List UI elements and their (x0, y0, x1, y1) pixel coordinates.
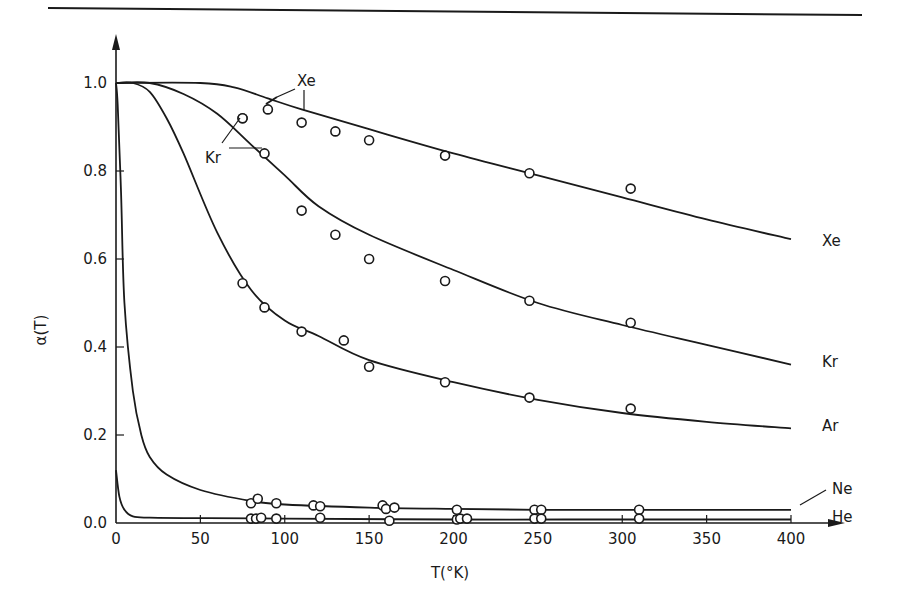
point-xe (297, 118, 306, 127)
y-axis-arrow-icon (112, 34, 120, 50)
y-tick-label: 0.8 (83, 162, 107, 180)
point-kr (525, 296, 534, 305)
curve-kr (116, 82, 791, 364)
annotation-xe: Xe (297, 72, 316, 90)
x-tick-label: 100 (270, 530, 299, 548)
x-tick-label: 350 (692, 530, 721, 548)
xe-leader-1 (277, 89, 295, 97)
point-ar (441, 378, 450, 387)
point-he (537, 514, 546, 523)
point-ne (272, 499, 281, 508)
point-ar (238, 279, 247, 288)
x-tick-label: 300 (608, 530, 637, 548)
point-ar (525, 393, 534, 402)
x-tick-label: 400 (777, 530, 806, 548)
series-label-he: He (832, 508, 853, 526)
x-tick-label: 200 (439, 530, 468, 548)
point-kr (441, 277, 450, 286)
series-label-ar: Ar (822, 417, 839, 435)
point-kr (626, 318, 635, 327)
point-ar (260, 303, 269, 312)
point-ne (382, 504, 391, 513)
y-tick-label: 1.0 (83, 74, 107, 92)
point-ne (316, 502, 325, 511)
point-ar (339, 336, 348, 345)
point-he (463, 514, 472, 523)
point-he (316, 513, 325, 522)
point-xe (263, 105, 272, 114)
ne-arrow-icon (800, 490, 826, 505)
point-ne (635, 505, 644, 514)
y-tick-label: 0.0 (83, 514, 107, 532)
series-label-kr: Kr (822, 353, 839, 371)
point-ne (390, 503, 399, 512)
point-ne (452, 505, 461, 514)
top-rule (48, 8, 862, 15)
curve-ar (116, 82, 791, 428)
x-tick-label: 150 (355, 530, 384, 548)
point-ar (365, 362, 374, 371)
y-tick-label: 0.6 (83, 250, 107, 268)
point-xe (331, 127, 340, 136)
point-ar (626, 404, 635, 413)
curves (116, 82, 791, 519)
series-label-ne: Ne (832, 480, 852, 498)
point-ne (537, 505, 546, 514)
x-tick-label: 250 (524, 530, 553, 548)
y-tick-label: 0.4 (83, 338, 107, 356)
point-he (257, 513, 266, 522)
y-tick-label: 0.2 (83, 426, 107, 444)
point-kr (297, 206, 306, 215)
curve-ne (116, 83, 791, 510)
annotation-kr: Kr (205, 149, 222, 167)
y-axis-label: α(T) (32, 315, 50, 346)
point-kr (365, 255, 374, 264)
point-kr (260, 149, 269, 158)
point-xe (441, 151, 450, 160)
point-he (635, 514, 644, 523)
point-kr (331, 230, 340, 239)
point-he (272, 514, 281, 523)
x-tick-label: 50 (191, 530, 210, 548)
point-ne (253, 494, 262, 503)
series-label-xe: Xe (822, 232, 841, 250)
point-xe (525, 169, 534, 178)
x-tick-label: 0 (111, 530, 121, 548)
point-he (385, 516, 394, 525)
x-axis-label: T(°K) (430, 564, 469, 582)
point-xe (626, 184, 635, 193)
point-ar (297, 327, 306, 336)
chart: 0501001502002503003504000.00.20.40.60.81… (0, 0, 899, 604)
point-xe (365, 136, 374, 145)
axes: 0501001502002503003504000.00.20.40.60.81… (83, 34, 845, 548)
